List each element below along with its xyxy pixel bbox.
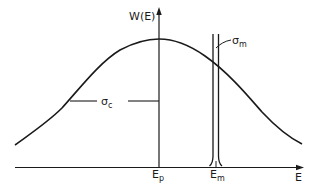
- x-axis-arrow-icon: [296, 165, 304, 170]
- y-axis-arrow-icon: [156, 7, 161, 15]
- sigma-c-label: σc: [101, 95, 112, 110]
- em-main: E: [210, 168, 217, 181]
- sigma-c-sub: c: [108, 101, 112, 110]
- sigma-m-label: σm: [232, 34, 247, 49]
- ep-tick-label: Ep: [152, 168, 164, 183]
- sigma-m-sub: m: [239, 40, 247, 49]
- sigma-c-main: σ: [101, 95, 108, 108]
- em-sub: m: [217, 174, 225, 183]
- ep-main: E: [152, 168, 159, 181]
- narrow-peak: [210, 34, 232, 168]
- energy-distribution-diagram: W(E) E Ep Em σc σm: [0, 0, 314, 195]
- y-axis-label: W(E): [129, 10, 155, 23]
- y-axis: [156, 7, 161, 168]
- sigma-m-main: σ: [232, 34, 239, 47]
- em-tick-label: Em: [210, 168, 225, 183]
- ep-sub: p: [159, 174, 164, 183]
- x-axis-label: E: [295, 171, 302, 184]
